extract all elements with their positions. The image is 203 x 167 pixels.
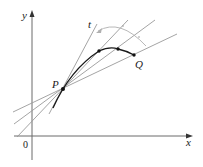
point-p [61, 87, 65, 91]
arc-tick-2 [138, 36, 140, 38]
points [61, 47, 136, 91]
arc-arrow-icon [96, 28, 102, 33]
rotation-arc [96, 25, 146, 46]
origin-label: 0 [23, 139, 28, 150]
arc-tick-1 [122, 25, 124, 27]
y-axis-arrow-icon [30, 10, 35, 17]
axes [14, 10, 193, 160]
secant-p2 [14, 20, 155, 124]
diagram-canvas: y x 0 P Q t [0, 0, 203, 167]
point-intermediate-1 [97, 49, 100, 52]
point-q [132, 53, 135, 56]
x-axis-label: x [185, 136, 191, 148]
point-intermediate-2 [116, 47, 119, 50]
point-p-label: P [51, 78, 59, 90]
tangent-secant-diagram: y x 0 P Q t [0, 0, 203, 167]
secant-lines [13, 20, 177, 137]
point-q-label: Q [135, 58, 143, 70]
secant-p1 [17, 20, 128, 137]
y-axis-label: y [21, 9, 27, 21]
secant-pq [13, 34, 177, 112]
tangent-label: t [88, 18, 92, 30]
